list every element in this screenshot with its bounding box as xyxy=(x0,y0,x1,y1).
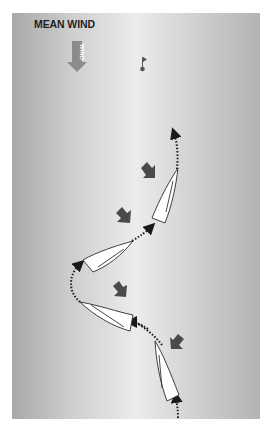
boat-3 xyxy=(83,241,133,272)
gust-arrow-icon xyxy=(170,334,184,349)
wind-direction-arrow-icon: WIND xyxy=(67,41,87,72)
gust-arrow-icon xyxy=(116,207,131,223)
wind-arrow-label: WIND xyxy=(79,44,85,61)
boat-4 xyxy=(152,168,178,223)
gust-arrow-icon xyxy=(141,162,155,178)
mark-flag-icon xyxy=(140,57,147,71)
boat-1 xyxy=(155,341,179,401)
sailing-diagram: WIND xyxy=(0,0,273,431)
gust-arrow-icon xyxy=(113,281,127,297)
boat-2 xyxy=(80,302,133,331)
